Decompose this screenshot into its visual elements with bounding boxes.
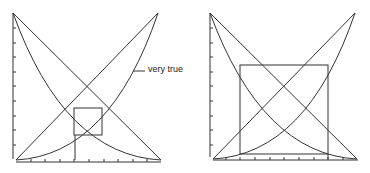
left-panel bbox=[13, 13, 161, 162]
left-true-line bbox=[16, 13, 158, 160]
right-true-line bbox=[213, 13, 355, 159]
diagram-canvas bbox=[0, 0, 370, 173]
right-box bbox=[240, 65, 328, 154]
very-true-label: very true bbox=[148, 64, 183, 74]
right-panel bbox=[210, 13, 358, 160]
